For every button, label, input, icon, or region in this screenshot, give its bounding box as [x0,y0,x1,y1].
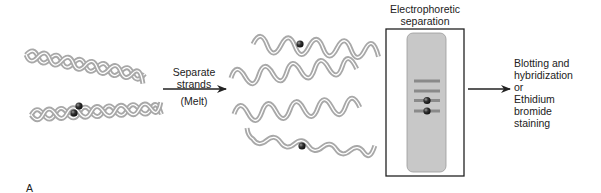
single-strand-2 [230,57,357,86]
result-line-5: bromide [514,105,573,117]
gel-band-1 [414,80,440,83]
melt-label-line2: strands [160,78,228,90]
result-line-2: hybridization [514,69,573,81]
label-dot-icon [298,142,305,149]
melt-label-line1: Separate [160,66,228,78]
single-strand-1 [253,36,380,59]
label-dot-icon [75,102,82,109]
melt-label: Separate strands (Melt) [160,66,228,107]
diagram-canvas [0,0,601,193]
result-line-6: staining [514,117,573,129]
result-label: Blotting and hybridization or Ethidium b… [514,57,573,129]
gel-title: Electrophoretic separation [375,3,475,27]
single-strand-4 [245,128,375,158]
gel-band-2 [414,90,440,93]
panel-label: A [26,182,33,193]
double-helix-1 [25,50,145,84]
gel-title-line2: separation [375,15,475,27]
single-strand-3 [233,97,360,122]
label-dot-icon [296,40,303,47]
gel-title-line1: Electrophoretic [375,3,475,15]
result-line-1: Blotting and [514,57,573,69]
result-line-3: or [514,81,573,93]
double-helix-2 [31,102,161,121]
label-dot-icon [423,107,430,114]
melt-label-line3: (Melt) [160,95,228,107]
label-dot-icon [70,109,77,116]
label-dot-icon [423,97,430,104]
result-line-4: Ethidium [514,93,573,105]
